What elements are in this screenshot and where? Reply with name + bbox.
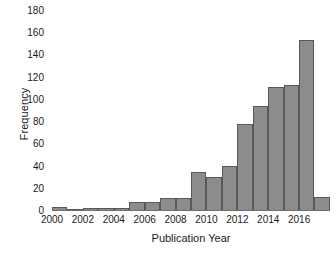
y-axis-tick-label: 180 — [27, 6, 44, 16]
plot-area — [52, 11, 330, 211]
bar — [314, 197, 329, 210]
bar — [206, 177, 221, 210]
x-axis-tick-label: 2008 — [164, 214, 186, 226]
plot-frame — [52, 11, 330, 211]
y-axis-tick-label: 100 — [27, 95, 44, 105]
x-axis-tick-label: 2014 — [257, 214, 279, 226]
bar — [299, 40, 314, 210]
bar — [129, 202, 144, 210]
bar — [160, 198, 175, 210]
bar — [176, 198, 191, 210]
y-axis-tick-label: 80 — [33, 117, 44, 127]
x-axis-tick-label: 2012 — [226, 214, 248, 226]
bar — [268, 87, 283, 210]
y-axis-tick-label: 60 — [33, 139, 44, 149]
bar — [145, 202, 160, 210]
bar — [284, 85, 299, 210]
bar — [237, 124, 252, 210]
y-axis-tick-label: 20 — [33, 184, 44, 194]
y-axis-tick-label: 120 — [27, 73, 44, 83]
x-axis-line — [52, 210, 330, 211]
x-axis-tick-label: 2002 — [72, 214, 94, 226]
x-axis-tick-label: 2006 — [134, 214, 156, 226]
x-axis-tick-label: 2004 — [103, 214, 125, 226]
histogram-chart: Frequency 180160140120100806040200 20002… — [0, 0, 336, 259]
x-axis-tick-label: 2016 — [288, 214, 310, 226]
x-axis-tick-label: 2010 — [195, 214, 217, 226]
y-axis-tick-label: 160 — [27, 28, 44, 38]
bar — [191, 172, 206, 210]
x-axis-title: Publication Year — [52, 232, 330, 244]
y-axis-tick-label: 140 — [27, 50, 44, 60]
x-axis-tick-labels: 200020022004200620082010201220142016 — [52, 214, 330, 230]
bar — [222, 166, 237, 210]
y-axis-tick-label: 40 — [33, 162, 44, 172]
bar — [253, 106, 268, 210]
bar-series — [52, 11, 330, 210]
x-axis-tick-label: 2000 — [41, 214, 63, 226]
